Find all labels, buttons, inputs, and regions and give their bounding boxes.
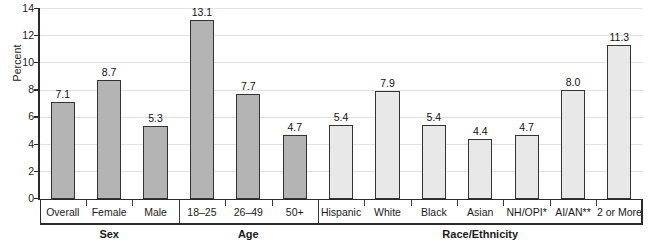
y-tick-mark xyxy=(34,62,38,63)
bar-rect[interactable] xyxy=(97,80,121,198)
bar-rect[interactable] xyxy=(561,90,585,199)
y-tick-mark xyxy=(34,144,38,145)
y-tick-label: 12 xyxy=(16,29,34,41)
category-tick xyxy=(411,200,412,206)
bar-nh-opi-[interactable]: 4.7 xyxy=(515,8,539,199)
bar-50-[interactable]: 4.7 xyxy=(283,8,307,199)
bar-rect[interactable] xyxy=(236,94,260,199)
bar-rect[interactable] xyxy=(51,102,75,199)
category-tick xyxy=(272,200,273,206)
y-tick-mark xyxy=(34,198,38,199)
category-label-2-or-more: 2 or More xyxy=(596,200,642,224)
category-label-50-: 50+ xyxy=(272,200,318,224)
category-label-hispanic: Hispanic xyxy=(318,200,364,224)
bar-white[interactable]: 7.9 xyxy=(375,8,399,199)
y-tick-mark xyxy=(34,116,38,117)
bar-value-label: 7.1 xyxy=(37,88,89,100)
bar-rect[interactable] xyxy=(283,135,307,199)
category-label-overall: Overall xyxy=(40,200,86,224)
y-tick-label: 4 xyxy=(16,138,34,150)
group-separator xyxy=(179,200,180,224)
y-tick-label: 6 xyxy=(16,110,34,122)
bar-value-label: 7.9 xyxy=(361,77,413,89)
y-tick-label: 2 xyxy=(16,165,34,177)
bar-rect[interactable] xyxy=(422,125,446,199)
bar-2-or-more[interactable]: 11.3 xyxy=(607,8,631,199)
bar-rect[interactable] xyxy=(190,20,214,198)
bar-asian[interactable]: 4.4 xyxy=(468,8,492,199)
category-label-male: Male xyxy=(132,200,178,224)
bar-black[interactable]: 5.4 xyxy=(422,8,446,199)
category-tick xyxy=(86,200,87,206)
y-tick-mark xyxy=(34,35,38,36)
category-label-black: Black xyxy=(411,200,457,224)
bar-value-label: 8.7 xyxy=(83,66,135,78)
bar-rect[interactable] xyxy=(607,45,631,199)
y-tick-mark xyxy=(34,8,38,9)
category-tick xyxy=(225,200,226,206)
bar-overall[interactable]: 7.1 xyxy=(51,8,75,199)
bar-female[interactable]: 8.7 xyxy=(97,8,121,199)
bar-value-label: 4.7 xyxy=(269,121,321,133)
category-label-band: OverallFemaleMale18–2526–4950+HispanicWh… xyxy=(40,200,643,224)
bar-value-label: 11.3 xyxy=(593,31,645,43)
bar-value-label: 4.4 xyxy=(454,125,506,137)
plot-area: 7.18.75.313.17.74.75.47.95.44.44.78.011.… xyxy=(40,8,643,199)
bar-value-label: 5.3 xyxy=(129,112,181,124)
y-tick-label: 8 xyxy=(16,83,34,95)
group-label-age: Age xyxy=(179,225,318,243)
category-tick xyxy=(503,200,504,206)
category-label-ai-an-: AI/AN** xyxy=(550,200,596,224)
bar-chart: Percent 02468101214 7.18.75.313.17.74.75… xyxy=(0,0,651,251)
band-edge-left xyxy=(40,200,41,224)
bar-rect[interactable] xyxy=(375,91,399,199)
category-label-26-49: 26–49 xyxy=(225,200,271,224)
y-tick-label: 0 xyxy=(16,192,34,204)
bar-rect[interactable] xyxy=(468,139,492,199)
band-edge-right xyxy=(641,200,642,224)
category-label-asian: Asian xyxy=(457,200,503,224)
bar-26-49[interactable]: 7.7 xyxy=(236,8,260,199)
category-tick xyxy=(457,200,458,206)
bar-ai-an-[interactable]: 8.0 xyxy=(561,8,585,199)
y-tick-label: 10 xyxy=(16,56,34,68)
bar-value-label: 5.4 xyxy=(315,111,367,123)
bar-male[interactable]: 5.3 xyxy=(143,8,167,199)
bar-value-label: 8.0 xyxy=(547,76,599,88)
category-label-white: White xyxy=(364,200,410,224)
category-label-18-25: 18–25 xyxy=(179,200,225,224)
category-label-nh-opi-: NH/OPI* xyxy=(503,200,549,224)
category-tick xyxy=(364,200,365,206)
category-tick xyxy=(132,200,133,206)
bar-hispanic[interactable]: 5.4 xyxy=(329,8,353,199)
bar-rect[interactable] xyxy=(515,135,539,199)
category-tick xyxy=(550,200,551,206)
bar-value-label: 13.1 xyxy=(176,6,228,18)
group-label-race-ethnicity: Race/Ethnicity xyxy=(318,225,643,243)
group-separator xyxy=(318,200,319,224)
bar-value-label: 7.7 xyxy=(222,80,274,92)
bar-rect[interactable] xyxy=(143,126,167,198)
bar-rect[interactable] xyxy=(329,125,353,199)
y-tick-mark xyxy=(34,171,38,172)
category-tick xyxy=(596,200,597,206)
group-label-sex: Sex xyxy=(40,225,179,243)
bar-value-label: 5.4 xyxy=(408,111,460,123)
bar-value-label: 4.7 xyxy=(501,121,553,133)
y-tick-label: 14 xyxy=(16,2,34,14)
group-label-band: SexAgeRace/Ethnicity xyxy=(40,225,643,243)
bar-18-25[interactable]: 13.1 xyxy=(190,8,214,199)
category-label-female: Female xyxy=(86,200,132,224)
